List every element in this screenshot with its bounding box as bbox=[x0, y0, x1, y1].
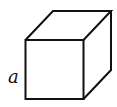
edge-label: a bbox=[8, 66, 19, 87]
cube-diagram: a bbox=[0, 0, 117, 107]
cube-top-face bbox=[26, 11, 112, 40]
cube-front-face bbox=[26, 40, 84, 99]
